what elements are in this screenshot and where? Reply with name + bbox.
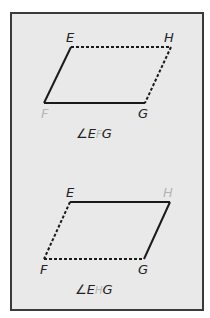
- angle-icon: ∠: [76, 126, 88, 141]
- side-ef-dashed: [44, 202, 70, 259]
- vertex-label-e: E: [66, 185, 75, 200]
- vertex-label-e: E: [66, 30, 75, 45]
- angle-label-efg: ∠EFG: [76, 126, 112, 141]
- side-hg-solid: [144, 202, 170, 259]
- vertex-label-g: G: [138, 106, 148, 121]
- vertex-label-h: H: [163, 185, 173, 200]
- parallelogram-bottom: E H F G ∠EHG: [40, 185, 173, 297]
- vertex-label-g: G: [138, 262, 148, 277]
- side-ef-solid: [44, 47, 71, 103]
- angle-label-ehg: ∠EHG: [75, 282, 112, 297]
- side-hg-dashed: [145, 47, 171, 103]
- vertex-label-f: F: [41, 106, 49, 121]
- vertex-label-f: F: [40, 262, 48, 277]
- parallelogram-top: E H F G ∠EFG: [41, 30, 174, 141]
- vertex-label-h: H: [164, 30, 174, 45]
- angle-icon: ∠: [75, 282, 87, 297]
- parallelogram-diagrams: E H F G ∠EFG E H F G ∠EHG: [0, 0, 210, 318]
